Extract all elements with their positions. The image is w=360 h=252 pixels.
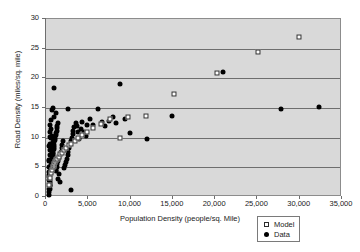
x-tick-label: 5,000 <box>78 199 97 208</box>
data-point-data <box>48 135 53 140</box>
y-axis-title: Road Density (miles/sq. mile) <box>13 25 22 175</box>
data-point-model <box>143 114 148 119</box>
data-point-data <box>220 70 225 75</box>
y-tick-mark <box>42 166 45 167</box>
data-point-data <box>55 177 60 182</box>
data-point-model <box>98 122 103 127</box>
data-points-layer <box>46 19 340 195</box>
y-tick-mark <box>42 18 45 19</box>
chart-legend: Model Data <box>257 216 300 242</box>
data-point-model <box>48 176 53 181</box>
data-point-data <box>51 106 56 111</box>
data-point-data <box>47 153 52 158</box>
data-point-data <box>85 122 90 127</box>
data-point-data <box>48 126 53 131</box>
data-point-data <box>54 111 59 116</box>
data-point-data <box>118 81 123 86</box>
data-point-model <box>118 135 123 140</box>
x-tick-label: 30,000 <box>287 199 310 208</box>
x-tick-label: 0 <box>43 199 47 208</box>
data-point-data <box>127 130 132 135</box>
data-point-data <box>95 107 100 112</box>
y-tick-mark <box>42 107 45 108</box>
data-point-data <box>61 139 66 144</box>
scatter-chart-figure: 051015202530 05,00010,00015,00020,00025,… <box>0 0 360 252</box>
legend-item-data: Data <box>261 229 294 239</box>
data-point-model <box>256 49 261 54</box>
x-tick-label: 35,000 <box>330 199 353 208</box>
legend-label-data: Data <box>274 230 290 239</box>
x-tick-label: 15,000 <box>160 199 183 208</box>
data-point-data <box>87 116 92 121</box>
x-axis-title: Population Density (people/sq. Mile) <box>0 214 360 223</box>
data-point-data <box>55 121 60 126</box>
y-tick-mark <box>42 77 45 78</box>
y-tick-label: 30 <box>14 13 39 22</box>
data-point-data <box>69 188 74 193</box>
filled-circle-icon <box>261 232 271 237</box>
x-tick-label: 25,000 <box>245 199 268 208</box>
legend-label-model: Model <box>274 220 294 229</box>
data-point-data <box>279 106 284 111</box>
data-point-model <box>126 114 131 119</box>
y-tick-mark <box>42 48 45 49</box>
data-point-data <box>48 141 53 146</box>
x-tick-label: 10,000 <box>118 199 141 208</box>
data-point-model <box>47 183 52 188</box>
data-point-model <box>91 126 96 131</box>
x-tick-label: 20,000 <box>203 199 226 208</box>
data-point-model <box>171 92 176 97</box>
data-point-data <box>114 121 119 126</box>
data-point-data <box>65 107 70 112</box>
y-axis-line <box>45 18 46 196</box>
data-point-data <box>47 148 52 153</box>
data-point-model <box>85 129 90 134</box>
plot-area <box>45 18 341 196</box>
y-tick-label: 0 <box>14 191 39 200</box>
data-point-data <box>170 114 175 119</box>
data-point-data <box>51 86 56 91</box>
legend-item-model: Model <box>261 219 294 229</box>
y-tick-mark <box>42 137 45 138</box>
data-point-model <box>214 70 219 75</box>
data-point-model <box>108 116 113 121</box>
data-point-data <box>317 105 322 110</box>
open-square-icon <box>261 222 271 227</box>
data-point-data <box>145 137 150 142</box>
data-point-model <box>296 35 301 40</box>
